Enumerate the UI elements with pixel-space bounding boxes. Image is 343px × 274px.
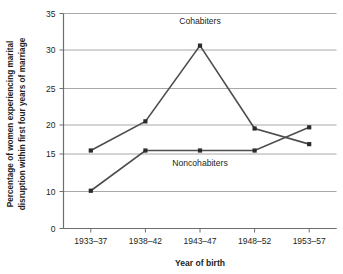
- data-point-noncohabiters-0: [89, 189, 93, 193]
- y-axis-title-line1: Percentage of women experiencing marital: [6, 41, 15, 208]
- data-point-noncohabiters-3: [253, 148, 257, 152]
- y-tick-label-15: 15: [46, 149, 56, 159]
- data-point-noncohabiters-4: [307, 125, 311, 129]
- data-point-cohabiters-4: [307, 142, 311, 146]
- y-tick-label-35: 35: [46, 9, 56, 19]
- y-tick-label-30: 30: [46, 45, 56, 55]
- data-point-cohabiters-0: [89, 148, 93, 152]
- data-point-cohabiters-2: [198, 44, 202, 48]
- data-point-noncohabiters-2: [198, 148, 202, 152]
- x-tick-label-4: 1953–57: [293, 236, 326, 246]
- y-axis-title-line2: disruption within first four years of ma…: [18, 37, 27, 210]
- series-annotation-noncohabiters: Noncohabiters: [172, 158, 227, 168]
- x-tick-label-0: 1933–37: [74, 236, 107, 246]
- series-annotation-cohabiters: Cohabiters: [179, 16, 221, 26]
- data-point-cohabiters-3: [253, 126, 257, 130]
- chart-container: 0101520253035 1933–371938–421943–471948–…: [0, 0, 343, 274]
- x-axis-title: Year of birth: [175, 258, 225, 268]
- x-tick-label-2: 1943–47: [183, 236, 216, 246]
- x-tick-label-3: 1948–52: [238, 236, 271, 246]
- line-chart: 0101520253035 1933–371938–421943–471948–…: [0, 0, 343, 274]
- y-tick-label-0: 0: [51, 224, 56, 234]
- data-point-cohabiters-1: [143, 119, 147, 123]
- y-tick-label-10: 10: [46, 187, 56, 197]
- x-tick-label-1: 1938–42: [129, 236, 162, 246]
- y-tick-label-25: 25: [46, 84, 56, 94]
- data-point-noncohabiters-1: [143, 148, 147, 152]
- y-tick-label-20: 20: [46, 120, 56, 130]
